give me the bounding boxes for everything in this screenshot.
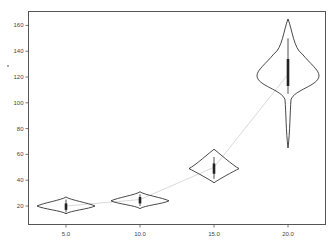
y-tick-label: 40 xyxy=(17,177,24,183)
trend-line xyxy=(66,74,288,206)
y-tick-label: 100 xyxy=(13,100,24,106)
x-tick-label: 15.0 xyxy=(208,231,220,237)
y-tick-label: 20 xyxy=(17,203,24,209)
x-axis: 5.010.015.020.0 xyxy=(62,225,295,237)
violin-chart: 20406080100120140160 5.010.015.020.0 xyxy=(0,0,336,243)
x-tick-label: 10.0 xyxy=(134,231,146,237)
y-tick-label: 80 xyxy=(17,126,24,132)
y-tick-label: 120 xyxy=(13,74,24,80)
x-tick-label: 20.0 xyxy=(282,231,294,237)
y-tick-label: 60 xyxy=(17,151,24,157)
x-tick-label: 5.0 xyxy=(62,231,71,237)
stray-marker xyxy=(7,65,9,67)
y-axis: 20406080100120140160 xyxy=(13,22,28,209)
y-tick-label: 140 xyxy=(13,48,24,54)
y-tick-label: 160 xyxy=(13,22,24,28)
violins xyxy=(37,19,319,214)
